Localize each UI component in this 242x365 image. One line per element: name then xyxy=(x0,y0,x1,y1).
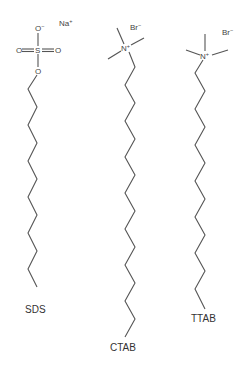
ctab-n-plus: N+ xyxy=(121,43,130,53)
ctab-structure: N+ Br− xyxy=(108,22,144,337)
sds-structure: O− S O O O Na+ xyxy=(16,18,72,287)
sds-o-left: O xyxy=(16,46,22,55)
ttab-label: TTAB xyxy=(191,313,216,324)
ttab-methyl-bond-right xyxy=(212,50,228,55)
sds-o-right: O xyxy=(55,46,61,55)
ctab-methyl-bond-top xyxy=(117,28,124,44)
ctab-label: CTAB xyxy=(110,342,136,353)
ttab-structure: N+ Br− xyxy=(186,27,233,309)
sds-counterion: Na+ xyxy=(59,18,72,28)
sds-o-minus: O− xyxy=(35,23,44,33)
ttab-methyl-bond-left xyxy=(186,50,200,55)
ttab-counterion: Br− xyxy=(222,27,233,37)
ctab-counterion: Br− xyxy=(130,22,141,32)
sds-label: SDS xyxy=(25,304,46,315)
sds-o-bottom: O xyxy=(35,67,41,76)
sds-alkyl-chain xyxy=(28,75,37,287)
sds-s-atom: S xyxy=(35,46,40,55)
ttab-alkyl-chain xyxy=(195,60,205,309)
ctab-methyl-bond-right xyxy=(131,38,144,45)
ttab-n-plus: N+ xyxy=(200,51,209,61)
ctab-methyl-bond-left xyxy=(108,51,121,59)
ctab-alkyl-chain xyxy=(125,52,135,337)
